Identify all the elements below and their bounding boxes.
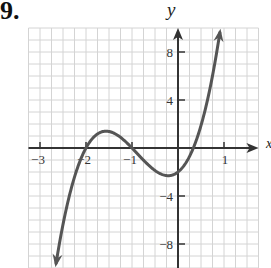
svg-text:1: 1: [222, 152, 229, 167]
svg-text:−3: −3: [31, 152, 45, 167]
graph: −3−2−1184−4−8: [0, 0, 271, 268]
svg-text:4: 4: [167, 93, 174, 108]
svg-text:−8: −8: [159, 237, 173, 252]
svg-text:−4: −4: [159, 189, 173, 204]
svg-text:8: 8: [167, 45, 174, 60]
svg-text:−1: −1: [123, 152, 137, 167]
